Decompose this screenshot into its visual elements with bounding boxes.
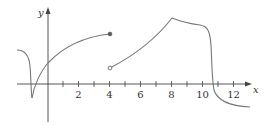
curve-middle-branch: [32, 34, 110, 98]
x-tick-label-8: 8: [168, 89, 174, 100]
x-tick-label-2: 2: [75, 89, 81, 100]
y-axis-label: y: [37, 7, 44, 18]
x-axis: [17, 81, 252, 87]
function-graph: 2 4 6 8 10 12 x y: [0, 0, 264, 129]
open-point: [108, 66, 112, 70]
x-tick-label-10: 10: [196, 89, 209, 100]
y-axis-arrow-icon: [46, 7, 51, 14]
x-tick-label-12: 12: [227, 89, 240, 100]
x-axis-arrow-icon: [245, 82, 252, 87]
x-axis-label: x: [253, 84, 259, 95]
x-tick-label-4: 4: [106, 89, 112, 100]
filled-point: [108, 32, 112, 36]
curve-group: [17, 18, 250, 107]
curve-left-branch: [17, 50, 32, 98]
x-tick-label-6: 6: [137, 89, 143, 100]
